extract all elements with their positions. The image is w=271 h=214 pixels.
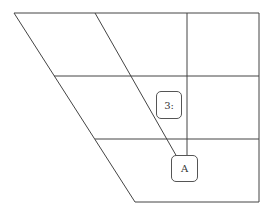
node-3-label: 3: bbox=[164, 100, 174, 111]
inner-diagonal bbox=[95, 13, 177, 157]
node-a-label: A bbox=[181, 163, 188, 174]
node-a-box: A bbox=[171, 155, 198, 182]
outer-boundary bbox=[14, 13, 259, 202]
node-3-box: 3: bbox=[156, 91, 182, 119]
grid-diagram bbox=[0, 0, 271, 214]
